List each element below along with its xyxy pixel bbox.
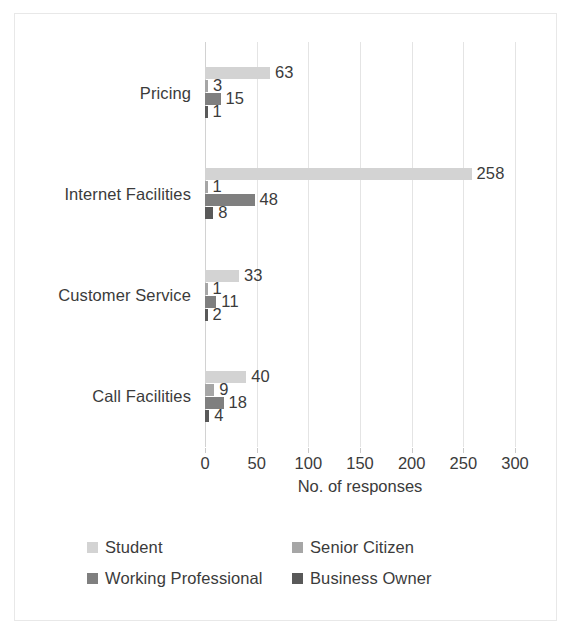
legend-swatch-icon bbox=[292, 573, 303, 584]
category-label-customer-service: Customer Service bbox=[58, 286, 191, 305]
bar-row: 3 bbox=[205, 80, 515, 92]
bar-row: 33 bbox=[205, 270, 515, 282]
bar-business-owner[interactable] bbox=[205, 207, 213, 219]
x-tick-label: 0 bbox=[200, 454, 209, 473]
bar-senior-citizen[interactable] bbox=[205, 384, 214, 396]
plot-area: 6331512581488331112409184 bbox=[205, 42, 515, 447]
bar-row: 1 bbox=[205, 181, 515, 193]
legend-label: Business Owner bbox=[310, 569, 432, 588]
bar-row: 63 bbox=[205, 67, 515, 79]
legend-item-working-professional[interactable]: Working Professional bbox=[87, 569, 292, 588]
bar-group: 2581488 bbox=[205, 168, 515, 220]
x-tick-mark bbox=[205, 448, 206, 453]
bar-row: 1 bbox=[205, 283, 515, 295]
bar-row: 48 bbox=[205, 194, 515, 206]
legend-item-business-owner[interactable]: Business Owner bbox=[292, 569, 432, 588]
bar-group: 331112 bbox=[205, 270, 515, 322]
bar-value-label: 8 bbox=[213, 203, 227, 222]
legend-row: Working ProfessionalBusiness Owner bbox=[87, 563, 487, 594]
legend-swatch-icon bbox=[292, 542, 303, 553]
x-tick-mark bbox=[360, 448, 361, 453]
legend-item-student[interactable]: Student bbox=[87, 538, 292, 557]
bar-row: 4 bbox=[205, 410, 515, 422]
x-tick-mark bbox=[463, 448, 464, 453]
bar-student[interactable] bbox=[205, 168, 472, 180]
legend-swatch-icon bbox=[87, 573, 98, 584]
bar-group: 409184 bbox=[205, 371, 515, 423]
legend-row: StudentSenior Citizen bbox=[87, 532, 487, 563]
x-tick-label: 200 bbox=[398, 454, 426, 473]
legend-swatch-icon bbox=[87, 542, 98, 553]
bar-value-label: 4 bbox=[209, 406, 223, 425]
x-tick-label: 50 bbox=[247, 454, 265, 473]
x-tick-label: 300 bbox=[501, 454, 529, 473]
x-tick-mark bbox=[308, 448, 309, 453]
bar-row: 40 bbox=[205, 371, 515, 383]
legend-label: Working Professional bbox=[105, 569, 263, 588]
x-axis-ticks: 050100150200250300 bbox=[205, 448, 515, 472]
bar-group: 633151 bbox=[205, 67, 515, 119]
category-axis: PricingInternet FacilitiesCustomer Servi… bbox=[15, 42, 199, 447]
bar-row: 9 bbox=[205, 384, 515, 396]
gridline-300 bbox=[515, 42, 516, 447]
x-tick-label: 150 bbox=[346, 454, 374, 473]
category-label-pricing: Pricing bbox=[140, 83, 191, 102]
category-label-internet-facilities: Internet Facilities bbox=[64, 184, 191, 203]
x-tick-mark bbox=[515, 448, 516, 453]
legend-label: Senior Citizen bbox=[310, 538, 414, 557]
legend-item-senior-citizen[interactable]: Senior Citizen bbox=[292, 538, 414, 557]
bar-value-label: 2 bbox=[208, 305, 222, 324]
x-axis-title: No. of responses bbox=[205, 477, 515, 496]
x-tick-label: 250 bbox=[450, 454, 478, 473]
bar-row: 2 bbox=[205, 309, 515, 321]
bar-row: 258 bbox=[205, 168, 515, 180]
bar-row: 11 bbox=[205, 296, 515, 308]
bar-row: 1 bbox=[205, 106, 515, 118]
x-tick-mark bbox=[412, 448, 413, 453]
bar-row: 15 bbox=[205, 93, 515, 105]
chart-legend: StudentSenior CitizenWorking Professiona… bbox=[87, 532, 487, 594]
category-label-call-facilities: Call Facilities bbox=[92, 387, 191, 406]
bar-value-label: 1 bbox=[208, 102, 222, 121]
legend-label: Student bbox=[105, 538, 163, 557]
chart-frame: PricingInternet FacilitiesCustomer Servi… bbox=[14, 13, 557, 621]
bar-row: 8 bbox=[205, 207, 515, 219]
bar-row: 18 bbox=[205, 397, 515, 409]
x-tick-label: 100 bbox=[295, 454, 323, 473]
x-tick-mark bbox=[257, 448, 258, 453]
